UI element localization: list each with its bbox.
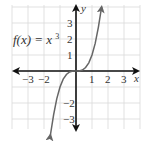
function-label: f(x) = x 3 — [13, 32, 59, 47]
cubic-function-graph: −3−2123 321−2−3 x y f(x) = x 3 — [0, 0, 147, 145]
y-tick-label: −2 — [63, 97, 75, 109]
y-tick-label: 2 — [67, 33, 73, 45]
x-tick-label: 2 — [105, 73, 111, 85]
x-tick-labels: −3−2123 — [22, 73, 127, 85]
x-tick-label: 1 — [89, 73, 95, 85]
y-tick-label: 1 — [67, 49, 73, 61]
x-tick-label: −2 — [38, 73, 50, 85]
x-axis-label: x — [133, 72, 139, 84]
function-base: x — [45, 32, 52, 47]
x-tick-label: −3 — [22, 73, 34, 85]
y-tick-label: −3 — [63, 113, 75, 125]
x-tick-label: 3 — [121, 73, 127, 85]
y-tick-label: 3 — [67, 17, 73, 29]
function-exponent: 3 — [55, 32, 59, 41]
y-axis-label: y — [80, 2, 86, 14]
function-lhs: f(x) = — [13, 32, 43, 47]
